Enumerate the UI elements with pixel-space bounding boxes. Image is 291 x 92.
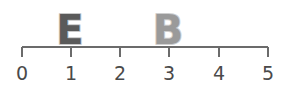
- tick-label-3: 3: [163, 62, 175, 84]
- tick-label-1: 1: [65, 62, 77, 84]
- tick-label-4: 4: [213, 62, 225, 84]
- marker-letter-b: B: [153, 7, 184, 53]
- tick-label-2: 2: [114, 62, 126, 84]
- tick-labels-group: 0 1 2 3 4 5: [16, 62, 274, 84]
- tick-label-5: 5: [262, 62, 274, 84]
- number-line-diagram: 0 1 2 3 4 5 E B: [0, 0, 291, 92]
- marker-letter-e: E: [56, 7, 83, 53]
- tick-label-0: 0: [16, 62, 28, 84]
- number-line-figure: 0 1 2 3 4 5 E B: [0, 0, 291, 92]
- marker-letters-group: E B: [56, 7, 183, 53]
